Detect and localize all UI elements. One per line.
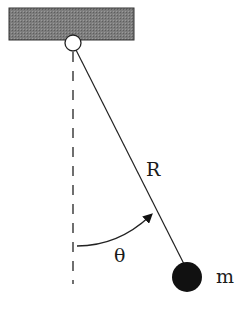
pendulum-string bbox=[75, 48, 186, 268]
pendulum-diagram: R θ m bbox=[0, 0, 251, 310]
pivot-point bbox=[65, 35, 81, 51]
mass-label: m bbox=[216, 265, 234, 287]
length-label: R bbox=[146, 158, 161, 180]
angle-arc-arrow bbox=[77, 216, 150, 246]
pendulum-bob bbox=[172, 262, 202, 292]
angle-label: θ bbox=[114, 244, 125, 266]
